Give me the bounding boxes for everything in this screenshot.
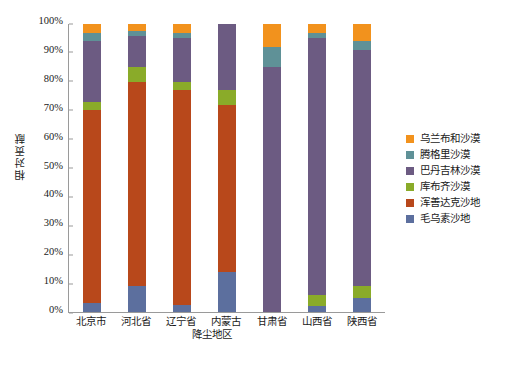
bar-segment[interactable]	[173, 82, 191, 91]
bar-segment[interactable]	[128, 36, 146, 68]
legend: 乌兰布和沙漠腾格里沙漠巴丹吉林沙漠库布齐沙漠浑善达克沙地毛乌素沙地	[406, 134, 480, 225]
legend-item-label: 库布齐沙漠	[420, 182, 470, 193]
stacked-bar[interactable]	[308, 24, 326, 312]
legend-item-label: 巴丹吉林沙漠	[420, 166, 480, 177]
bar-column[interactable]	[114, 24, 159, 312]
x-axis-tick-label: 陕西省	[340, 315, 385, 328]
legend-item[interactable]: 巴丹吉林沙漠	[406, 166, 480, 177]
bar-segment[interactable]	[128, 67, 146, 81]
bar-group	[69, 24, 385, 312]
y-axis-title: 相对贡献	[16, 132, 27, 180]
bar-segment[interactable]	[353, 298, 371, 312]
bar-column[interactable]	[69, 24, 114, 312]
bar-segment[interactable]	[83, 41, 101, 101]
bar-segment[interactable]	[353, 50, 371, 286]
bar-segment[interactable]	[173, 305, 191, 312]
stacked-bar[interactable]	[353, 24, 371, 312]
stacked-bar-chart: 相对贡献 0%10%20%30%40%50%60%70%80%90%100% 北…	[0, 0, 510, 366]
bar-segment[interactable]	[83, 24, 101, 33]
legend-swatch-icon	[406, 215, 414, 223]
bar-segment[interactable]	[128, 286, 146, 312]
stacked-bar[interactable]	[263, 24, 281, 312]
bar-segment[interactable]	[218, 272, 236, 312]
y-tick-mark	[69, 312, 73, 313]
bar-segment[interactable]	[308, 24, 326, 33]
legend-item[interactable]: 毛乌素沙地	[406, 214, 480, 225]
y-tick-label: 100%	[39, 16, 64, 27]
bar-segment[interactable]	[353, 286, 371, 298]
y-tick-label: 60%	[44, 131, 63, 142]
bar-column[interactable]	[340, 24, 385, 312]
stacked-bar[interactable]	[173, 24, 191, 312]
y-tick-label: 30%	[44, 218, 63, 229]
bar-segment[interactable]	[353, 24, 371, 41]
plot-area: 0%10%20%30%40%50%60%70%80%90%100%	[68, 24, 385, 313]
bar-segment[interactable]	[263, 24, 281, 47]
bar-segment[interactable]	[173, 38, 191, 81]
x-axis-tick-label: 河北省	[113, 315, 158, 328]
legend-item[interactable]: 库布齐沙漠	[406, 182, 480, 193]
legend-item[interactable]: 浑善达克沙地	[406, 198, 480, 209]
y-tick-label: 80%	[44, 73, 63, 84]
bar-segment[interactable]	[83, 110, 101, 303]
bar-segment[interactable]	[263, 67, 281, 312]
bar-segment[interactable]	[83, 102, 101, 111]
bar-segment[interactable]	[308, 38, 326, 294]
x-axis-tick-label: 辽宁省	[159, 315, 204, 328]
x-axis-title: 降尘地区	[68, 330, 385, 341]
stacked-bar[interactable]	[218, 24, 236, 312]
x-axis-title-text: 降尘地区	[192, 330, 232, 341]
y-tick-label: 20%	[44, 247, 63, 258]
legend-item-label: 腾格里沙漠	[420, 150, 470, 161]
bar-column[interactable]	[250, 24, 295, 312]
legend-item-label: 毛乌素沙地	[420, 214, 470, 225]
x-axis-tick-label: 甘肃省	[249, 315, 294, 328]
bar-column[interactable]	[204, 24, 249, 312]
legend-swatch-icon	[406, 167, 414, 175]
bar-segment[interactable]	[173, 90, 191, 305]
bar-segment[interactable]	[263, 47, 281, 67]
legend-item[interactable]: 乌兰布和沙漠	[406, 134, 480, 145]
y-tick-label: 90%	[44, 44, 63, 55]
bar-segment[interactable]	[218, 105, 236, 272]
bar-segment[interactable]	[308, 306, 326, 312]
y-tick-label: 0%	[49, 305, 63, 316]
bar-segment[interactable]	[353, 41, 371, 50]
bar-segment[interactable]	[218, 90, 236, 104]
legend-swatch-icon	[406, 151, 414, 159]
stacked-bar[interactable]	[83, 24, 101, 312]
legend-swatch-icon	[406, 183, 414, 191]
y-tick-label: 10%	[44, 276, 63, 287]
bar-segment[interactable]	[173, 24, 191, 33]
legend-item-label: 浑善达克沙地	[420, 198, 480, 209]
bar-segment[interactable]	[128, 24, 146, 31]
bar-segment[interactable]	[83, 33, 101, 42]
bar-column[interactable]	[295, 24, 340, 312]
legend-swatch-icon	[406, 135, 414, 143]
bar-segment[interactable]	[128, 82, 146, 287]
bar-segment[interactable]	[83, 303, 101, 312]
legend-item-label: 乌兰布和沙漠	[420, 134, 480, 145]
bar-segment[interactable]	[218, 24, 236, 90]
x-axis-tick-labels: 北京市河北省辽宁省内蒙古甘肃省山西省陕西省	[68, 315, 385, 328]
x-axis-tick-label: 内蒙古	[204, 315, 249, 328]
legend-swatch-icon	[406, 199, 414, 207]
x-axis-tick-label: 山西省	[294, 315, 339, 328]
stacked-bar[interactable]	[128, 24, 146, 312]
y-tick-label: 70%	[44, 102, 63, 113]
legend-item[interactable]: 腾格里沙漠	[406, 150, 480, 161]
x-axis-tick-label: 北京市	[68, 315, 113, 328]
y-tick-label: 40%	[44, 189, 63, 200]
y-tick-label: 50%	[44, 160, 63, 171]
bar-column[interactable]	[159, 24, 204, 312]
bar-segment[interactable]	[308, 295, 326, 307]
